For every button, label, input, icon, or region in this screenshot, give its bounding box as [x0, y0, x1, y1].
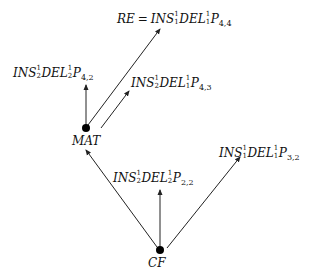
sub: 2: [168, 178, 172, 185]
ins-scripts: 12: [136, 171, 141, 185]
node-mat-dot: [82, 124, 90, 132]
sub: 2: [68, 73, 72, 80]
ins-term: INS: [113, 171, 136, 185]
sub: 1: [274, 153, 278, 160]
p-sub: 4,4: [219, 19, 232, 28]
sub: 1: [206, 19, 210, 26]
sup: 1: [186, 75, 190, 82]
ins-scripts: 11: [174, 12, 179, 26]
node-cf-dot: [156, 246, 164, 254]
ins-scripts: 12: [36, 66, 41, 80]
del-scripts: 11: [274, 146, 279, 160]
del-term: DEL: [179, 12, 205, 26]
label-p43: INS12DEL11P4,3: [131, 76, 212, 92]
label-p42: INS12DEL12P4,2: [13, 66, 94, 82]
sub: 1: [174, 19, 178, 26]
sup: 1: [206, 11, 210, 18]
sup: 1: [136, 170, 140, 177]
del-scripts: 11: [186, 76, 191, 90]
p-sub: 2,2: [181, 178, 194, 187]
p-term: P: [279, 146, 287, 160]
label-p32: INS11DEL11P3,2: [219, 146, 300, 162]
del-scripts: 12: [168, 171, 173, 185]
diagram-canvas: [0, 0, 320, 273]
sup: 1: [68, 65, 72, 72]
del-term: DEL: [247, 146, 273, 160]
sub: 1: [242, 153, 246, 160]
ins-scripts: 12: [154, 76, 159, 90]
sup: 1: [242, 145, 246, 152]
del-term: DEL: [41, 66, 67, 80]
sub: 2: [136, 178, 140, 185]
del-scripts: 11: [206, 12, 211, 26]
p-sub: 4,2: [81, 73, 94, 82]
del-term: DEL: [159, 76, 185, 90]
node-mat-label: MAT: [72, 135, 100, 147]
sup: 1: [274, 145, 278, 152]
sup: 1: [154, 75, 158, 82]
p-term: P: [191, 76, 199, 90]
p-term: P: [73, 66, 81, 80]
del-term: DEL: [141, 171, 167, 185]
sub: 2: [154, 83, 158, 90]
sup: 1: [174, 11, 178, 18]
re-prefix: RE: [117, 12, 135, 26]
ins-scripts: 11: [242, 146, 247, 160]
sup: 1: [168, 170, 172, 177]
ins-term: INS: [151, 12, 174, 26]
label-re-p44: RE=INS11DEL11P4,4: [117, 12, 232, 28]
equals-sign: =: [135, 12, 151, 26]
p-term: P: [173, 171, 181, 185]
sup: 1: [36, 65, 40, 72]
sub: 1: [186, 83, 190, 90]
p-sub: 3,2: [287, 153, 300, 162]
node-cf-label: CF: [148, 257, 166, 269]
label-p22: INS12DEL12P2,2: [113, 171, 194, 187]
ins-term: INS: [131, 76, 154, 90]
edge-mat-to-p43: [101, 91, 129, 128]
del-scripts: 12: [68, 66, 73, 80]
ins-term: INS: [13, 66, 36, 80]
edge-cf-to-mat: [86, 150, 157, 247]
sub: 2: [36, 73, 40, 80]
p-term: P: [211, 12, 219, 26]
ins-term: INS: [219, 146, 242, 160]
p-sub: 4,3: [199, 83, 212, 92]
